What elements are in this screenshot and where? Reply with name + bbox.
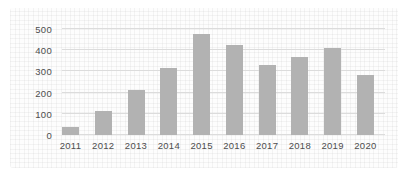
x-cell-2019: 2019 bbox=[324, 140, 341, 151]
x-tick-label-2013: 2013 bbox=[125, 140, 147, 151]
bar-2020 bbox=[357, 75, 374, 135]
bar-2017 bbox=[259, 65, 276, 135]
bar-2015 bbox=[193, 34, 210, 135]
bar-2013 bbox=[128, 90, 145, 135]
bar-2011 bbox=[62, 127, 79, 135]
x-tick-label-2020: 2020 bbox=[354, 140, 376, 151]
x-tick-label-2014: 2014 bbox=[158, 140, 180, 151]
y-tick-label-200: 200 bbox=[35, 87, 52, 98]
x-cell-2018: 2018 bbox=[291, 140, 308, 151]
bar-2014 bbox=[160, 68, 177, 135]
bar-2019 bbox=[324, 48, 341, 135]
x-cell-2016: 2016 bbox=[226, 140, 243, 151]
x-cell-2012: 2012 bbox=[95, 140, 112, 151]
y-axis: 0100200300400500 bbox=[10, 29, 52, 135]
x-tick-label-2016: 2016 bbox=[223, 140, 245, 151]
x-axis: 2011201220132014201520162017201820192020 bbox=[62, 140, 374, 151]
x-cell-2020: 2020 bbox=[357, 140, 374, 151]
x-cell-2015: 2015 bbox=[193, 140, 210, 151]
x-tick-label-2011: 2011 bbox=[60, 140, 82, 151]
bar-2016 bbox=[226, 45, 243, 135]
plot-area bbox=[62, 29, 385, 135]
x-tick-label-2018: 2018 bbox=[289, 140, 311, 151]
x-cell-2013: 2013 bbox=[128, 140, 145, 151]
y-tick-label-100: 100 bbox=[35, 108, 52, 119]
x-cell-2014: 2014 bbox=[160, 140, 177, 151]
x-cell-2017: 2017 bbox=[259, 140, 276, 151]
y-tick-label-400: 400 bbox=[35, 45, 52, 56]
x-tick-label-2017: 2017 bbox=[256, 140, 278, 151]
y-tick-label-500: 500 bbox=[35, 24, 52, 35]
x-tick-label-2015: 2015 bbox=[190, 140, 212, 151]
x-tick-label-2019: 2019 bbox=[321, 140, 343, 151]
y-tick-label-300: 300 bbox=[35, 66, 52, 77]
bar-2018 bbox=[291, 57, 308, 135]
y-tick-label-0: 0 bbox=[46, 130, 52, 141]
bar-2012 bbox=[95, 111, 112, 135]
x-tick-label-2012: 2012 bbox=[92, 140, 114, 151]
bars-row bbox=[62, 29, 374, 135]
chart-panel: 0100200300400500 20112012201320142015201… bbox=[10, 8, 398, 168]
x-cell-2011: 2011 bbox=[62, 140, 79, 151]
